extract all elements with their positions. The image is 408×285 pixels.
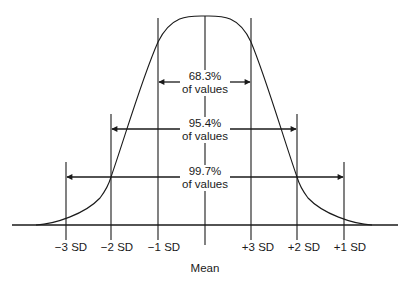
tick-label-plus3: +3 SD [240, 241, 276, 254]
tick-label-minus1: −1 SD [146, 241, 182, 254]
interval-68-percent: 68.3% [182, 70, 228, 83]
tick-label-minus2: −2 SD [99, 241, 135, 254]
normal-distribution-diagram: 68.3% of values 95.4% of values 99.7% of… [0, 0, 408, 285]
interval-99-label: 99.7% of values [180, 165, 230, 191]
interval-68-label: 68.3% of values [180, 70, 230, 96]
mean-label: Mean [189, 262, 222, 275]
interval-95-label: 95.4% of values [180, 117, 230, 143]
tick-label-plus1: +1 SD [332, 241, 368, 254]
tick-label-plus2: +2 SD [286, 241, 322, 254]
interval-99-percent: 99.7% [182, 165, 228, 178]
interval-68-caption: of values [182, 83, 228, 96]
interval-95-percent: 95.4% [182, 117, 228, 130]
interval-99-caption: of values [182, 178, 228, 191]
tick-label-minus3: −3 SD [53, 241, 89, 254]
interval-95-caption: of values [182, 130, 228, 143]
